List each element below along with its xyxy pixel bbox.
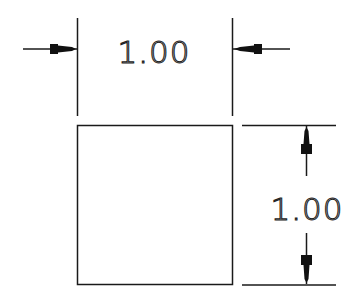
left-arrow-icon	[23, 44, 77, 54]
square-shape	[78, 126, 233, 285]
bottom-arrow-icon	[301, 233, 312, 284]
top-arrow-icon	[301, 126, 312, 176]
width-dimension-label: 1.00	[117, 34, 190, 70]
dimension-drawing: 1.00 1.00	[0, 0, 360, 299]
height-dimension-label: 1.00	[270, 191, 343, 227]
right-arrow-icon	[233, 44, 290, 54]
